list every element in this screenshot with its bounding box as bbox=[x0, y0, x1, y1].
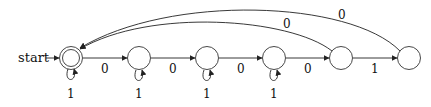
state-q0 bbox=[60, 47, 83, 70]
state-q2 bbox=[196, 47, 219, 70]
edge-label-q2-q3: 0 bbox=[237, 62, 245, 76]
edge-label-q3-q4: 0 bbox=[304, 62, 312, 76]
start-label: start bbox=[18, 50, 50, 65]
loop-label-q3: 1 bbox=[270, 87, 278, 101]
self-loop-q1 bbox=[135, 70, 143, 81]
loop-label-q0: 1 bbox=[67, 87, 75, 101]
loop-label-q1: 1 bbox=[135, 87, 143, 101]
automaton-diagram: start 0 0 0 0 1 0 0 1 1 1 1 bbox=[0, 0, 431, 107]
loop-label-q2: 1 bbox=[203, 87, 211, 101]
state-q3 bbox=[263, 47, 286, 70]
edge-label-q5-q0: 0 bbox=[338, 8, 346, 22]
self-loop-q0 bbox=[67, 69, 75, 80]
edge-label-q0-q1: 0 bbox=[101, 62, 109, 76]
state-q4 bbox=[330, 47, 353, 70]
edge-label-q4-q0: 0 bbox=[283, 17, 291, 31]
edge-label-q4-q5: 1 bbox=[371, 62, 379, 76]
edge-label-q1-q2: 0 bbox=[169, 62, 177, 76]
self-loop-q2 bbox=[203, 70, 211, 81]
state-q5 bbox=[398, 47, 421, 70]
state-q1 bbox=[128, 47, 151, 70]
self-loop-q3 bbox=[270, 70, 278, 81]
